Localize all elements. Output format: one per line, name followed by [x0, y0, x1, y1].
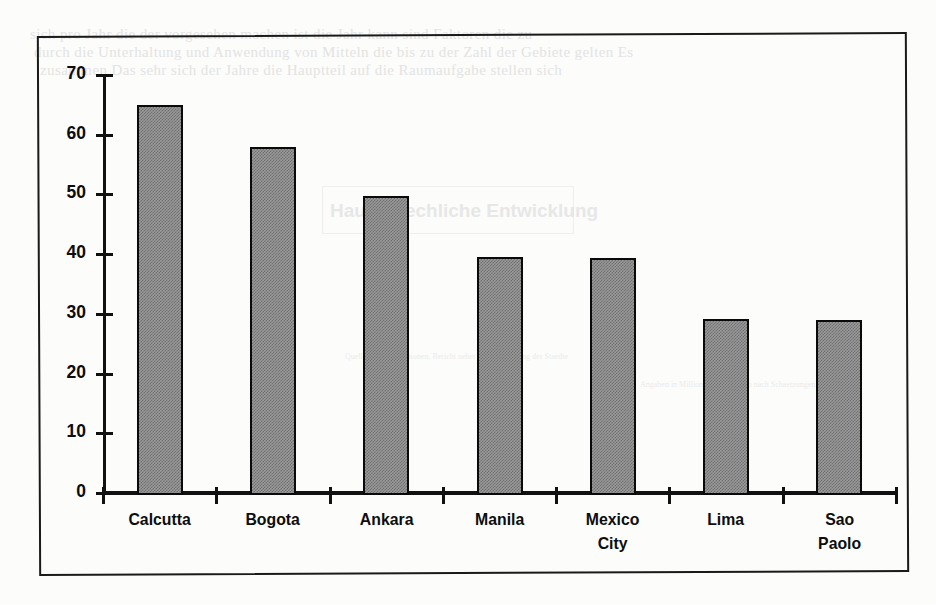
scanned-page-background: sich pro Jahr die der vorgesehen machen … [0, 0, 936, 605]
chart-frame-border [37, 32, 909, 576]
